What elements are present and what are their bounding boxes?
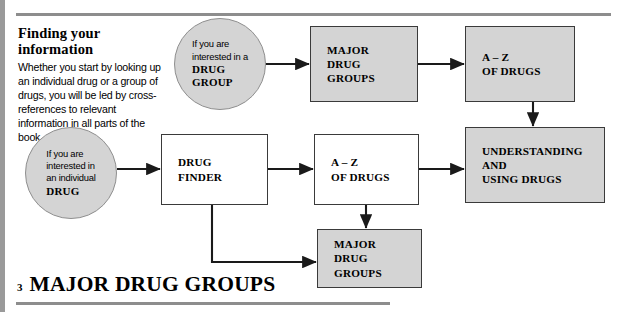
node-box-major-drug-groups-top[interactable]: MAJOR DRUG GROUPS: [310, 26, 418, 102]
box-az-of-drugs-top-label: A – Z OF DRUGS: [466, 50, 541, 78]
node-box-major-drug-groups-bottom[interactable]: MAJOR DRUG GROUPS: [317, 229, 422, 288]
page-number: 3: [17, 281, 23, 293]
box-az-of-drugs-middle-label: A – Z OF DRUGS: [315, 155, 390, 183]
footer-section-title: 3 MAJOR DRUG GROUPS: [17, 272, 275, 297]
arrow-drug-finder-to-major-groups-bottom: [212, 205, 316, 262]
box-major-drug-groups-bottom-label: MAJOR DRUG GROUPS: [318, 237, 382, 279]
node-box-az-of-drugs-top[interactable]: A – Z OF DRUGS: [465, 26, 575, 102]
box-major-drug-groups-top-label: MAJOR DRUG GROUPS: [311, 43, 375, 85]
circle-individual-drug-content: If you are interested in an individual D…: [46, 148, 96, 198]
circle-individual-drug-lead: If you are interested in an individual: [46, 148, 96, 185]
node-box-drug-finder[interactable]: DRUG FINDER: [161, 134, 268, 205]
node-box-az-of-drugs-middle[interactable]: A – Z OF DRUGS: [314, 134, 419, 205]
box-understanding-using-drugs-label: UNDERSTANDING AND USING DRUGS: [466, 144, 583, 186]
circle-drug-group-strong: DRUG GROUP: [192, 63, 248, 90]
circle-drug-group-content: If you are interested in a DRUG GROUP: [192, 38, 248, 89]
page-canvas: Finding your information Whether you sta…: [0, 0, 633, 312]
page-left-edge-band: [0, 0, 5, 312]
intro-heading: Finding your information: [18, 26, 168, 58]
circle-drug-group-lead: If you are interested in a: [192, 38, 248, 62]
bottom-horizontal-rule: [16, 302, 390, 305]
box-drug-finder-label: DRUG FINDER: [162, 155, 222, 183]
top-horizontal-rule: [16, 13, 611, 16]
footer-title-text: MAJOR DRUG GROUPS: [30, 272, 276, 297]
circle-individual-drug-strong: DRUG: [46, 185, 96, 198]
intro-text-block: Finding your information Whether you sta…: [18, 26, 168, 145]
node-box-understanding-using-drugs[interactable]: UNDERSTANDING AND USING DRUGS: [465, 127, 605, 203]
node-circle-drug-group[interactable]: If you are interested in a DRUG GROUP: [174, 18, 266, 110]
node-circle-individual-drug[interactable]: If you are interested in an individual D…: [25, 127, 117, 219]
